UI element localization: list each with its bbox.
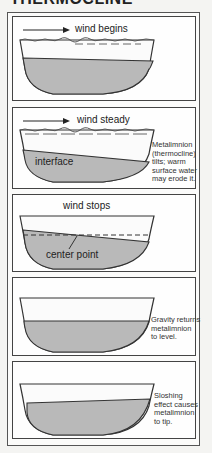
sloshing-note: Sloshing effect causes metalimnion to ti… [154, 392, 198, 426]
panel-wind-begins: wind begins [12, 16, 196, 101]
metalimnion-tilt-note: Metalimnion (thermocline) tilts; warm su… [152, 141, 197, 184]
wind-label: wind stops [63, 201, 110, 211]
gravity-note: Gravity returns metalimnion to level. [151, 316, 200, 342]
panel-gravity-returns: Gravity returns metalimnion to level. [12, 277, 196, 356]
panel-sloshing: Sloshing effect causes metalimnion to ti… [12, 361, 196, 439]
wind-label: wind begins [75, 24, 128, 34]
panel-wind-stops: wind stops center point [12, 194, 196, 272]
wind-arrow-icon [23, 27, 70, 33]
panel-wind-steady: wind steady interface Metalimnion (therm… [12, 107, 196, 189]
center-point-label: center point [46, 250, 98, 260]
diagram-title: THERMOCLINE [10, 0, 133, 8]
wind-arrow-icon [23, 118, 70, 124]
wind-label: wind steady [77, 115, 130, 125]
interface-label: interface [35, 157, 73, 167]
